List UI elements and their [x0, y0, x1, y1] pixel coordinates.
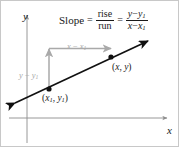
point-1-label: (x1, y1)	[42, 94, 68, 104]
equals-sign-2: =	[117, 15, 123, 25]
rise-label: y − y1	[19, 71, 39, 81]
x-axis-label: x	[167, 125, 172, 136]
point-1-comma: ,	[53, 93, 55, 103]
denominator-subscript: 1	[142, 24, 145, 31]
slope-word: Slope	[59, 15, 84, 26]
run-minus: −	[73, 41, 78, 51]
y-axis-label: y	[23, 11, 28, 22]
run-subscript: 1	[84, 45, 87, 51]
slope-diagram-figure: Slope = rise run = y−y1 x−x1 y x (x1, y1…	[0, 0, 179, 147]
numerator-subscript: 1	[142, 12, 145, 19]
rise-numerator: rise	[96, 9, 114, 20]
delta-y-over-delta-x-fraction: y−y1 x−x1	[126, 9, 148, 31]
run-var-x1: x	[67, 41, 71, 51]
point-2-comma: ,	[119, 62, 121, 72]
delta-x-denominator: x−x1	[126, 20, 148, 32]
point-2-label: (x, y)	[112, 63, 132, 73]
delta-y-numerator: y−y1	[126, 9, 148, 20]
rise-var-y1: y	[19, 70, 23, 80]
rise-minus: −	[25, 70, 30, 80]
equals-sign-1: =	[87, 15, 93, 25]
run-label: x − x1	[67, 42, 87, 52]
slope-formula: Slope = rise run = y−y1 x−x1	[59, 9, 148, 31]
rise-over-run-fraction: rise run	[96, 9, 114, 31]
point-1-close-paren: )	[65, 93, 68, 103]
rise-subscript: 1	[36, 74, 39, 80]
point-2-dot	[108, 54, 113, 59]
point-2-close-paren: )	[128, 62, 131, 72]
run-denominator: run	[96, 20, 113, 32]
point-1-dot	[46, 86, 51, 91]
